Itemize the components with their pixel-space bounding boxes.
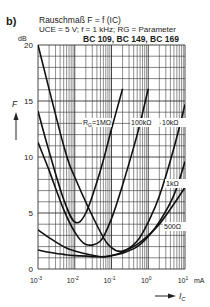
y-tick-label: 15 <box>24 97 33 106</box>
x-tick-label: 10-2 <box>67 275 79 284</box>
noise-figure-chart: 0510152010-310-210-1100101mAFICRG=1MΩ100… <box>0 0 210 307</box>
x-tick-label: 10-1 <box>103 275 115 284</box>
curve-label: 500Ω <box>164 223 181 230</box>
x-tick-label: 100 <box>141 275 152 284</box>
grid <box>38 45 185 269</box>
curve-label: 1kΩ <box>166 180 179 187</box>
y-tick-label: 5 <box>29 209 34 218</box>
x-tick-label: 10-3 <box>30 275 42 284</box>
y-tick-label: 10 <box>24 153 33 162</box>
y-axis-label: F <box>12 99 18 109</box>
y-tick-label: 20 <box>24 41 33 50</box>
curve-label: 10kΩ <box>162 119 179 126</box>
x-tick-label: 101 <box>178 275 189 284</box>
x-unit: mA <box>194 277 205 284</box>
y-tick-label: 0 <box>29 265 34 274</box>
curve-label: 100kΩ <box>131 119 151 126</box>
x-axis-label: IC <box>179 291 185 302</box>
